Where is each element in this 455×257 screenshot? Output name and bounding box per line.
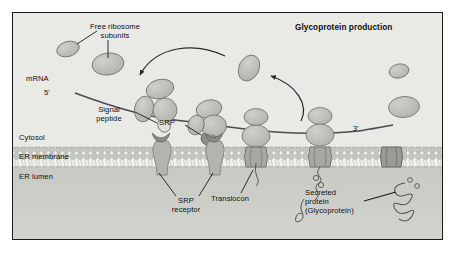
translocon-b: [309, 147, 332, 167]
label-five-prime: 5': [44, 89, 50, 98]
figure-title: Glycoprotein production: [295, 23, 392, 33]
diagram-frame: Glycoprotein production Free ribosome su…: [12, 12, 443, 240]
label-cytosol: Cytosol: [19, 134, 45, 143]
label-signal-peptide: Signal peptide: [86, 106, 132, 124]
label-three-prime: 3': [353, 125, 359, 134]
label-translocon: Translocon: [211, 195, 249, 204]
figure-canvas: Glycoprotein production Free ribosome su…: [0, 0, 455, 257]
label-er-lumen: ER lumen: [19, 173, 53, 182]
label-secreted-protein: Secreted protein (Glycoprotein): [305, 189, 354, 216]
label-free-ribosome-subunits: Free ribosome subunits: [73, 23, 157, 41]
ribosome-translocon-complex-b: [306, 108, 334, 168]
label-mrna: mRNA: [26, 75, 49, 84]
label-er-membrane: ER membrane: [19, 153, 69, 162]
diagram-svg: [13, 13, 443, 240]
label-srp-receptor: SRP receptor: [160, 197, 212, 215]
label-srp: SRP: [159, 119, 175, 128]
translocon-empty: [381, 147, 403, 167]
er-membrane-bilayer: [13, 147, 443, 167]
